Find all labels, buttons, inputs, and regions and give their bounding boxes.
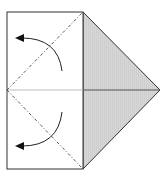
origami-diagram xyxy=(0,0,168,177)
diagram-canvas xyxy=(0,0,168,177)
